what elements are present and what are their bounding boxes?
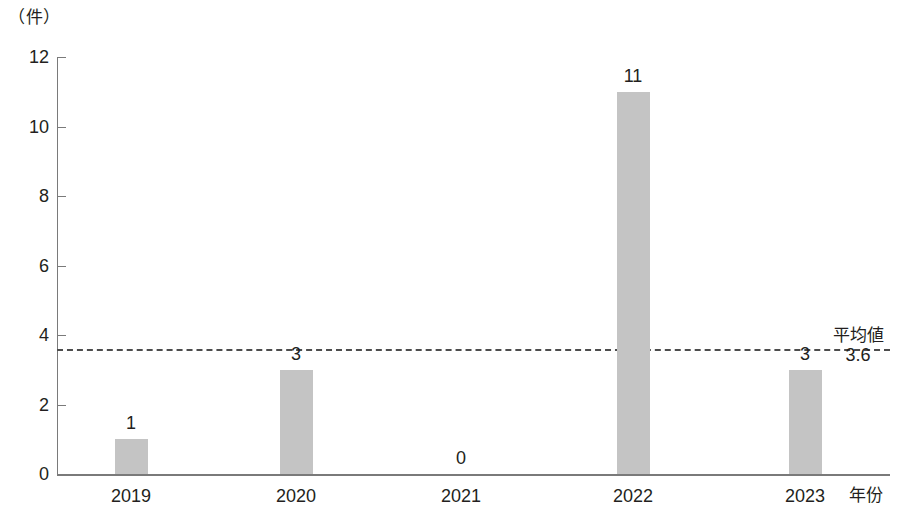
- bar: [617, 92, 650, 474]
- x-axis-title: 年份: [849, 487, 883, 505]
- x-axis-tick-label: 2022: [613, 487, 653, 505]
- y-axis-tick-label: 10: [9, 118, 49, 136]
- x-axis-tick-label: 2021: [441, 487, 481, 505]
- bar-value-label: 3: [765, 345, 845, 363]
- y-axis-tick-label: 2: [9, 396, 49, 414]
- y-axis-tick: [58, 266, 66, 267]
- y-axis-tick: [58, 57, 66, 58]
- y-axis-unit-label: （件）: [8, 7, 61, 29]
- bar-value-label: 3: [256, 345, 336, 363]
- average-label: 平均値: [823, 326, 893, 345]
- x-axis-tick-label: 2023: [785, 487, 825, 505]
- bar-value-label: 0: [421, 449, 501, 467]
- x-axis-tick-label: 2019: [111, 487, 151, 505]
- y-axis-tick: [58, 405, 66, 406]
- y-axis-tick-label: 6: [9, 257, 49, 275]
- bar-value-label: 11: [593, 67, 673, 85]
- bar: [789, 370, 822, 474]
- y-axis-tick-label-text: 2: [9, 396, 49, 414]
- y-axis-tick-label: 12: [9, 48, 49, 66]
- y-axis-tick: [58, 196, 66, 197]
- y-axis-tick: [58, 335, 66, 336]
- bar: [115, 439, 148, 474]
- y-axis-tick-label-text: 0: [9, 465, 49, 483]
- y-axis-tick: [58, 474, 66, 475]
- plot-area: 024681012 平均値 3.6 130113: [57, 57, 890, 474]
- y-axis-tick-label-text: 4: [9, 326, 49, 344]
- x-axis-tick-label: 2020: [276, 487, 316, 505]
- y-axis-tick-label-text: 8: [9, 187, 49, 205]
- y-axis-tick-label-text: 6: [9, 257, 49, 275]
- y-axis-tick-label: 4: [9, 326, 49, 344]
- bar: [280, 370, 313, 474]
- y-axis-tick-label: 8: [9, 187, 49, 205]
- y-axis-tick: [58, 127, 66, 128]
- bar-value-label: 1: [91, 414, 171, 432]
- y-axis-tick-label: 0: [9, 465, 49, 483]
- x-axis-line: [57, 474, 890, 476]
- y-axis-tick-label-text: 10: [9, 118, 49, 136]
- bar-chart: （件） 024681012 平均値 3.6 130113 20192020202…: [0, 0, 899, 517]
- y-axis-tick-label-text: 12: [9, 48, 49, 66]
